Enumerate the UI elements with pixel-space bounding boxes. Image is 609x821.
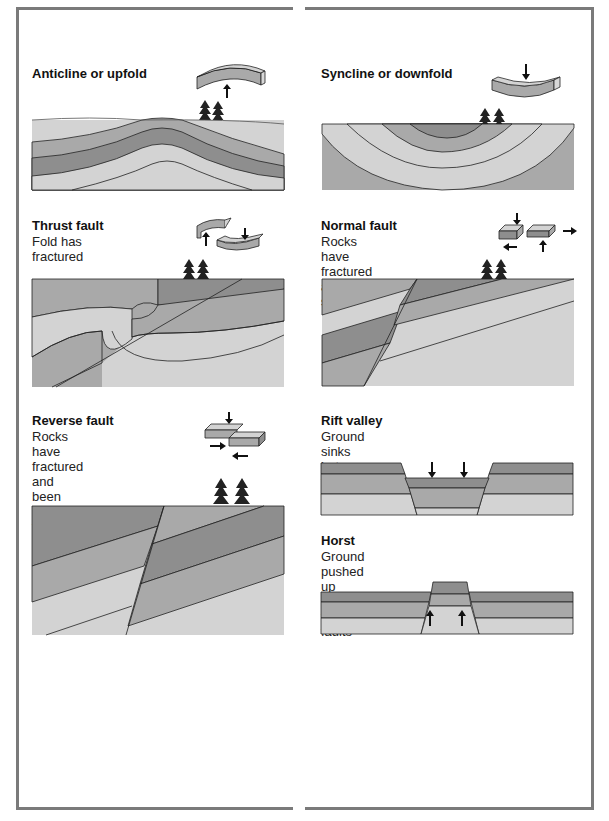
trees-icon (212, 478, 252, 506)
arrow-up-icon (538, 240, 548, 252)
arrow-up-icon (425, 610, 435, 626)
arrow-right-icon (210, 441, 226, 451)
reverse-fault-diagram (32, 506, 284, 635)
panel-title: Horst (321, 533, 355, 548)
thrust-fault-diagram (32, 279, 284, 387)
panel-title: Rift valley (321, 413, 382, 428)
horst-diagram (321, 582, 573, 636)
panel-title: Normal fault (321, 218, 397, 233)
arrow-down-icon (512, 213, 522, 225)
panel-title: Thrust fault (32, 218, 104, 233)
arrow-up-icon (222, 84, 232, 98)
panel-title: Reverse fault (32, 413, 114, 428)
arrow-left-icon (232, 451, 248, 461)
arrow-up-icon (457, 610, 467, 626)
arrow-right-icon (563, 226, 577, 236)
arrow-down-icon (224, 412, 234, 424)
normal-fault-blocks-icon (497, 223, 561, 243)
syncline-block-icon (490, 74, 562, 102)
arrow-left-icon (503, 242, 517, 252)
trees-icon (480, 259, 510, 281)
anticline-diagram (32, 118, 284, 190)
panel-title: Anticline or upfold (32, 66, 147, 81)
trees-icon (182, 259, 212, 281)
normal-fault-diagram (322, 279, 574, 386)
panel-title: Syncline or downfold (321, 66, 452, 81)
arrow-down-icon (240, 228, 250, 240)
arrow-up-icon (201, 232, 211, 246)
panel-description: Fold has fractured (32, 234, 83, 264)
rift-valley-diagram (321, 462, 573, 516)
syncline-diagram (322, 124, 574, 190)
